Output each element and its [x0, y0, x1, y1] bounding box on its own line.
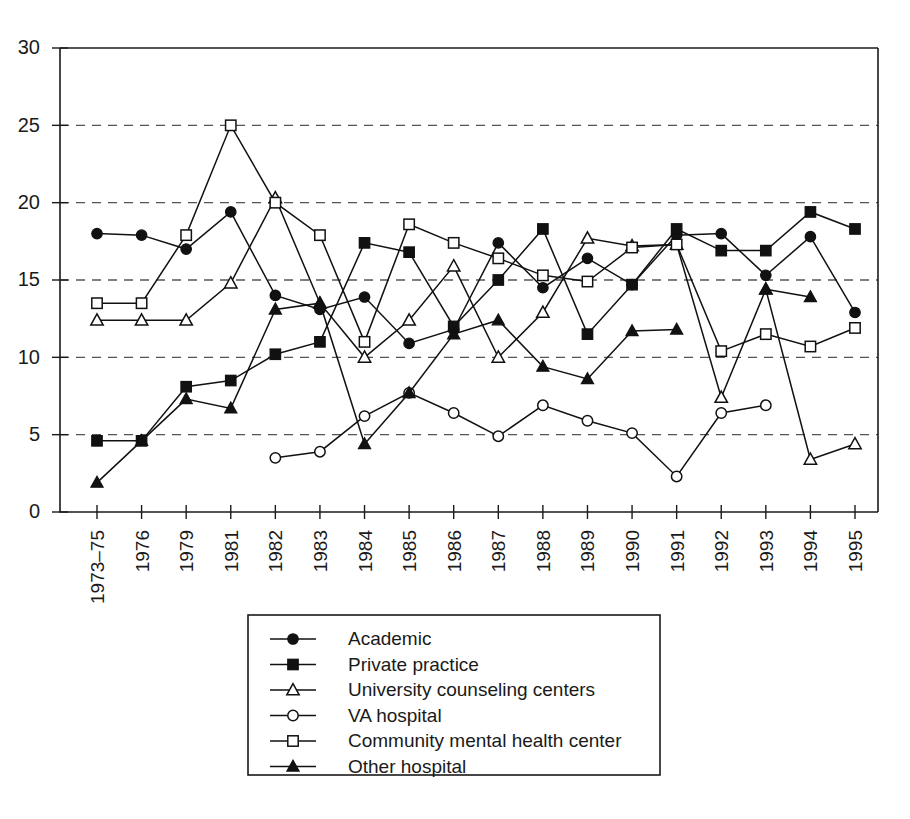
data-point	[226, 120, 236, 130]
xtick-label-0: 1973–75	[87, 530, 108, 604]
ytick-label-25: 25	[18, 114, 40, 136]
xtick-label-1: 1976	[132, 530, 153, 572]
data-point	[359, 238, 369, 248]
marker-filled-square	[493, 275, 503, 285]
data-point	[180, 393, 192, 404]
marker-filled-triangle	[760, 283, 772, 294]
data-point	[850, 224, 860, 234]
marker-filled-square	[538, 224, 548, 234]
data-point	[181, 382, 191, 392]
legend-marker	[288, 736, 298, 746]
data-point	[449, 238, 459, 248]
marker-open-square	[805, 341, 815, 351]
marker-open-square	[404, 219, 414, 229]
marker-filled-circle	[582, 253, 592, 263]
xtick-label-9: 1987	[488, 530, 509, 572]
xtick-label-14: 1992	[711, 530, 732, 572]
marker-filled-circle	[270, 290, 280, 300]
data-point	[538, 270, 548, 280]
data-point	[805, 231, 815, 241]
marker-filled-circle	[288, 634, 298, 644]
ytick-label-10: 10	[18, 346, 40, 368]
series-line	[97, 125, 855, 351]
data-point	[314, 297, 326, 308]
marker-open-square	[181, 230, 191, 240]
marker-open-circle	[270, 453, 280, 463]
data-point	[538, 283, 548, 293]
marker-open-triangle	[537, 306, 549, 317]
data-point	[359, 292, 369, 302]
marker-open-square	[582, 276, 592, 286]
legend-label: Community mental health center	[348, 730, 622, 751]
data-point	[359, 411, 369, 421]
data-point	[850, 323, 860, 333]
marker-open-triangle	[91, 314, 103, 325]
marker-open-square	[270, 197, 280, 207]
marker-open-circle	[359, 411, 369, 421]
marker-filled-square	[92, 436, 102, 446]
marker-open-square	[493, 253, 503, 263]
marker-open-triangle	[715, 391, 727, 402]
ytick-label-15: 15	[18, 268, 40, 290]
data-point	[538, 400, 548, 410]
xtick-label-15: 1993	[756, 530, 777, 572]
data-point	[671, 239, 681, 249]
marker-filled-square	[288, 659, 298, 669]
data-point	[671, 471, 681, 481]
marker-filled-square	[582, 329, 592, 339]
data-point	[448, 260, 460, 271]
marker-open-circle	[716, 408, 726, 418]
marker-open-circle	[288, 710, 298, 720]
legend-marker	[288, 634, 298, 644]
data-point	[627, 242, 637, 252]
data-point	[716, 346, 726, 356]
marker-filled-triangle	[180, 393, 192, 404]
series-line	[97, 289, 810, 482]
data-point	[493, 431, 503, 441]
series-community-mental-health-center	[92, 120, 860, 356]
marker-open-triangle	[225, 277, 237, 288]
legend: AcademicPrivate practiceUniversity couns…	[248, 615, 660, 777]
data-point	[671, 323, 683, 334]
data-point	[92, 436, 102, 446]
marker-filled-circle	[226, 207, 236, 217]
data-point	[582, 276, 592, 286]
series-va-hospital	[270, 388, 771, 482]
data-point	[91, 314, 103, 325]
xtick-label-11: 1989	[577, 530, 598, 572]
ytick-label-20: 20	[18, 191, 40, 213]
data-point	[761, 270, 771, 280]
data-point	[493, 253, 503, 263]
marker-filled-circle	[136, 230, 146, 240]
marker-filled-square	[270, 349, 280, 359]
data-point	[716, 408, 726, 418]
data-point	[92, 228, 102, 238]
marker-open-triangle	[448, 260, 460, 271]
data-point	[671, 224, 681, 234]
marker-open-square	[359, 337, 369, 347]
marker-filled-square	[226, 375, 236, 385]
data-point	[315, 230, 325, 240]
data-point	[493, 275, 503, 285]
data-point	[404, 247, 414, 257]
legend-label: Other hospital	[348, 756, 466, 777]
marker-open-square	[226, 120, 236, 130]
data-point	[716, 228, 726, 238]
marker-open-square	[449, 238, 459, 248]
series-line	[97, 198, 855, 459]
marker-open-square	[288, 736, 298, 746]
xtick-label-7: 1985	[399, 530, 420, 572]
data-point	[715, 391, 727, 402]
xtick-label-6: 1984	[355, 530, 376, 573]
data-point	[582, 416, 592, 426]
data-point	[315, 337, 325, 347]
data-point	[226, 375, 236, 385]
marker-filled-triangle	[671, 323, 683, 334]
marker-open-square	[761, 329, 771, 339]
xtick-label-12: 1990	[622, 530, 643, 572]
marker-open-triangle	[135, 314, 147, 325]
marker-open-square	[716, 346, 726, 356]
marker-open-square	[850, 323, 860, 333]
xtick-label-5: 1983	[310, 530, 331, 572]
data-point	[92, 298, 102, 308]
